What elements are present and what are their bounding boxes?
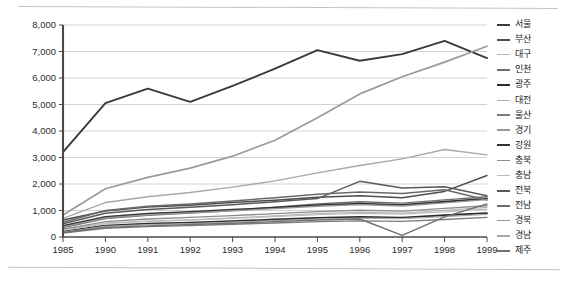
legend-item-label: 경북 [515, 216, 531, 225]
y-axis-tick-label: 4,000 [32, 125, 56, 136]
legend-item-label: 광주 [515, 80, 531, 89]
legend-item[interactable]: 대구 [497, 47, 565, 62]
legend-item-label: 충북 [515, 156, 531, 165]
legend-item-label: 전북 [515, 186, 531, 195]
legend-line-swatch [497, 69, 510, 71]
legend-item-label: 대전 [515, 96, 531, 105]
legend-line-swatch [497, 129, 510, 131]
series-line [63, 41, 487, 152]
legend-item[interactable]: 울산 [497, 108, 565, 123]
legend-line-swatch [497, 250, 510, 252]
legend-item[interactable]: 충남 [497, 168, 565, 183]
y-axis-tick-label: 2,000 [32, 178, 56, 189]
legend-item[interactable]: 광주 [497, 77, 565, 92]
y-axis-tick-label: 0 [51, 231, 56, 242]
legend-item-label: 충남 [515, 171, 531, 180]
y-axis-tick-label: 5,000 [32, 99, 56, 110]
x-axis-tick-label: 1999 [476, 244, 497, 255]
x-axis-tick-label: 1998 [434, 244, 455, 255]
legend-item-label: 전남 [515, 201, 531, 210]
legend-item-label: 경남 [515, 231, 531, 240]
legend-item[interactable]: 전북 [497, 183, 565, 198]
legend-item[interactable]: 대전 [497, 92, 565, 107]
x-axis-tick-label: 1996 [349, 244, 370, 255]
legend-item-label: 울산 [515, 111, 531, 120]
legend-item[interactable]: 서울 [497, 17, 565, 32]
legend-line-swatch [497, 114, 510, 116]
legend-item-label: 경기 [515, 126, 531, 135]
y-axis-tick-label: 7,000 [32, 46, 56, 57]
legend-item-label: 강원 [515, 141, 531, 150]
x-axis-tick-label: 1990 [95, 244, 116, 255]
x-axis-tick-label: 1985 [52, 244, 73, 255]
legend-item[interactable]: 전남 [497, 198, 565, 213]
x-axis-tick-label: 1992 [180, 244, 201, 255]
x-axis-tick-label: 1994 [264, 244, 285, 255]
legend-line-swatch [497, 144, 510, 146]
legend-line-swatch [497, 100, 510, 101]
legend-item[interactable]: 경기 [497, 123, 565, 138]
legend-item[interactable]: 인천 [497, 62, 565, 77]
legend-line-swatch [497, 205, 510, 207]
legend-line-swatch [497, 24, 510, 26]
legend-line-swatch [497, 84, 510, 86]
legend-item-label: 부산 [515, 35, 531, 44]
legend-line-swatch [497, 235, 510, 237]
legend-item[interactable]: 경북 [497, 213, 565, 228]
legend-item-label: 제주 [515, 246, 531, 255]
series-group [63, 41, 487, 236]
legend-item-label: 서울 [515, 20, 531, 29]
legend-item[interactable]: 강원 [497, 138, 565, 153]
legend-line-swatch [497, 175, 510, 176]
chart-figure: 01,0002,0003,0004,0005,0006,0007,0008,00… [0, 0, 568, 284]
legend-item[interactable]: 부산 [497, 32, 565, 47]
x-axis-tick-label: 1993 [222, 244, 243, 255]
legend-item-label: 인천 [515, 65, 531, 74]
legend-line-swatch [497, 190, 510, 192]
legend-item[interactable]: 충북 [497, 153, 565, 168]
legend-line-swatch [497, 160, 510, 161]
legend-item[interactable]: 제주 [497, 243, 565, 258]
x-axis-ticks: 1985199019911992199319941995199619971998… [52, 237, 497, 255]
y-axis-tick-label: 1,000 [32, 205, 56, 216]
legend-item-label: 대구 [515, 50, 531, 59]
y-axis-tick-label: 6,000 [32, 72, 56, 83]
legend-line-swatch [497, 39, 510, 41]
legend-line-swatch [497, 54, 510, 55]
x-axis-tick-label: 1997 [392, 244, 413, 255]
chart-svg: 01,0002,0003,0004,0005,0006,0007,0008,00… [0, 0, 568, 284]
x-axis-tick-label: 1995 [307, 244, 328, 255]
line-chart-plot: 01,0002,0003,0004,0005,0006,0007,0008,00… [0, 0, 568, 284]
x-axis-tick-label: 1991 [137, 244, 158, 255]
legend-line-swatch [497, 220, 510, 221]
chart-legend: 서울부산대구인천광주대전울산경기강원충북충남전북전남경북경남제주 [497, 17, 565, 265]
legend-item[interactable]: 경남 [497, 228, 565, 243]
y-axis-tick-label: 3,000 [32, 152, 56, 163]
y-axis-tick-label: 8,000 [32, 19, 56, 30]
